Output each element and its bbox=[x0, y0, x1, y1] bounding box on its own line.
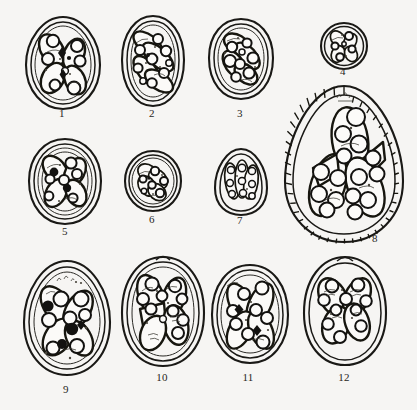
figure-label-2: 2 bbox=[137, 108, 167, 119]
specimen-3 bbox=[205, 16, 277, 102]
figure-label-9: 9 bbox=[51, 384, 81, 395]
sporocyst-group-10 bbox=[132, 271, 192, 354]
sporocyst-group-11 bbox=[221, 279, 279, 352]
figure-label-4: 4 bbox=[328, 66, 358, 77]
figure-label-3: 3 bbox=[225, 108, 255, 119]
sporocyst-group-1 bbox=[34, 30, 91, 98]
specimen-10 bbox=[118, 251, 208, 371]
figure-label-5: 5 bbox=[50, 226, 80, 237]
specimen-1 bbox=[22, 14, 104, 112]
figure-label-12: 12 bbox=[329, 372, 359, 383]
figure-label-8: 8 bbox=[360, 233, 390, 244]
specimen-7 bbox=[212, 146, 270, 218]
specimen-9 bbox=[20, 258, 114, 380]
sporocyst-group-6 bbox=[134, 160, 171, 204]
illustration-plate: 1 bbox=[0, 0, 417, 410]
specimen-12 bbox=[300, 252, 390, 370]
figure-label-10: 10 bbox=[147, 372, 177, 383]
micropyle-marks-9 bbox=[57, 276, 82, 284]
sporocyst-group-3 bbox=[218, 29, 264, 89]
figure-label-6: 6 bbox=[137, 214, 167, 225]
figure-label-11: 11 bbox=[233, 372, 263, 383]
specimen-8 bbox=[281, 82, 407, 248]
sporocyst-group-12 bbox=[312, 273, 376, 347]
sporocyst-group-9 bbox=[34, 276, 99, 361]
figure-label-7: 7 bbox=[225, 215, 255, 226]
sporocyst-group-7 bbox=[223, 160, 261, 200]
specimen-5 bbox=[25, 136, 105, 228]
sporocyst-group-4 bbox=[327, 28, 360, 64]
specimen-2 bbox=[118, 13, 188, 109]
specimen-11 bbox=[208, 262, 292, 368]
micropyle-8 bbox=[337, 93, 353, 101]
sporocyst-group-5 bbox=[38, 151, 91, 211]
specimen-6 bbox=[122, 148, 184, 216]
figure-label-1: 1 bbox=[47, 108, 77, 119]
